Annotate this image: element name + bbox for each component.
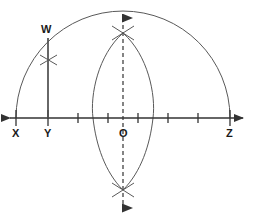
lens-arc-right [123,33,154,190]
point-label-w: W [41,24,51,35]
point-label-z: Z [226,128,233,139]
construction-canvas [0,0,255,220]
point-label-x: X [12,128,19,139]
lens-arc-left [92,33,123,190]
point-label-y: Y [44,128,51,139]
geometric-construction-figure: W X Y O Z [0,0,255,220]
point-label-o: O [119,128,128,139]
